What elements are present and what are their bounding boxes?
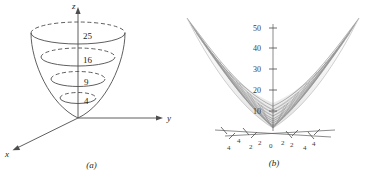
level-label-25: 25 — [83, 31, 93, 41]
panel-a-caption: (a) — [0, 160, 183, 170]
z-tick-label-10: 10 — [253, 107, 261, 116]
horizontal-axis-1: 4 2 2 4 — [225, 129, 335, 152]
axis-2-label-pos4: 4 — [303, 144, 307, 152]
axis-1-label-neg2: 2 — [249, 143, 253, 151]
axis-1-label-pos4: 4 — [312, 140, 316, 148]
z-tick-label-50: 50 — [253, 24, 261, 33]
x-axis-line — [17, 118, 78, 148]
axis-1-tick-pos4 — [314, 129, 320, 135]
axis-2-label-neg4: 4 — [237, 137, 241, 145]
level-label-16: 16 — [83, 55, 93, 65]
panel-a-svg: 25 16 9 4 z y x — [0, 0, 183, 160]
panel-a-paraboloid-level-curves: 25 16 9 4 z y x — [0, 0, 183, 181]
z-axis-arrowhead — [75, 7, 80, 14]
level-label-4: 4 — [84, 96, 89, 106]
y-axis-group — [78, 115, 163, 120]
figure-container: 25 16 9 4 z y x — [0, 0, 365, 181]
axis-2-label-pos2: 2 — [281, 139, 285, 147]
x-axis-arrowhead — [13, 145, 21, 150]
level-label-9: 9 — [84, 77, 89, 87]
paraboloid-left-edge — [31, 33, 78, 118]
z-tick-label-20: 20 — [253, 86, 261, 95]
origin-label: 0 — [269, 142, 273, 150]
x-axis-group — [13, 118, 79, 150]
panel-b-svg: 50 40 30 20 10 4 2 2 4 — [183, 0, 365, 160]
axis-2-label-neg2: 2 — [258, 139, 262, 147]
axis-1-tick-neg2 — [251, 132, 257, 138]
y-axis-arrowhead — [156, 115, 163, 120]
y-axis-label: y — [166, 113, 171, 123]
x-axis-label: x — [4, 149, 9, 159]
z-tick-label-30: 30 — [253, 65, 261, 74]
axis-1-label-neg4: 4 — [227, 144, 231, 152]
z-tick-label-40: 40 — [253, 44, 261, 53]
panel-b-mesh-surface: 50 40 30 20 10 4 2 2 4 — [183, 0, 365, 181]
panel-b-caption: (b) — [183, 158, 365, 168]
z-axis-label: z — [71, 1, 76, 11]
z-axis-group — [75, 7, 80, 118]
axis-1-label-pos2: 2 — [290, 141, 294, 149]
